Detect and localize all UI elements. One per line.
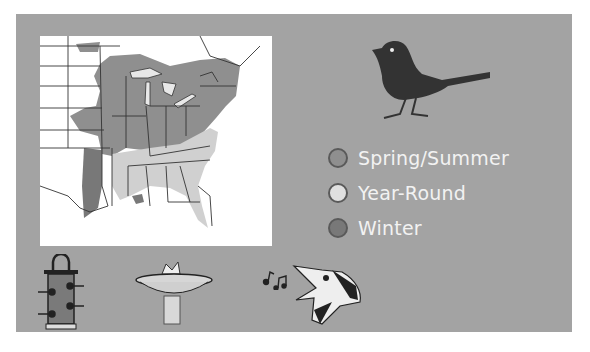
legend-label: Winter [358, 217, 422, 239]
legend-item-spring-summer: Spring/Summer [328, 140, 509, 175]
singing-bird-icon [292, 262, 364, 332]
swatch-year-round-icon [328, 183, 348, 203]
legend-item-year-round: Year-Round [328, 175, 509, 210]
music-notes-icon [262, 268, 288, 294]
legend: Spring/Summer Year-Round Winter [328, 140, 509, 245]
swatch-spring-summer-icon [328, 148, 348, 168]
tube-feeder-icon [36, 254, 86, 336]
legend-label: Year-Round [358, 182, 466, 204]
birdbath-icon [134, 260, 214, 330]
bird-silhouette-icon [362, 36, 492, 130]
swatch-winter-icon [328, 218, 348, 238]
legend-label: Spring/Summer [358, 147, 509, 169]
us-map-icon [40, 36, 272, 246]
legend-item-winter: Winter [328, 210, 509, 245]
range-map [40, 36, 272, 246]
